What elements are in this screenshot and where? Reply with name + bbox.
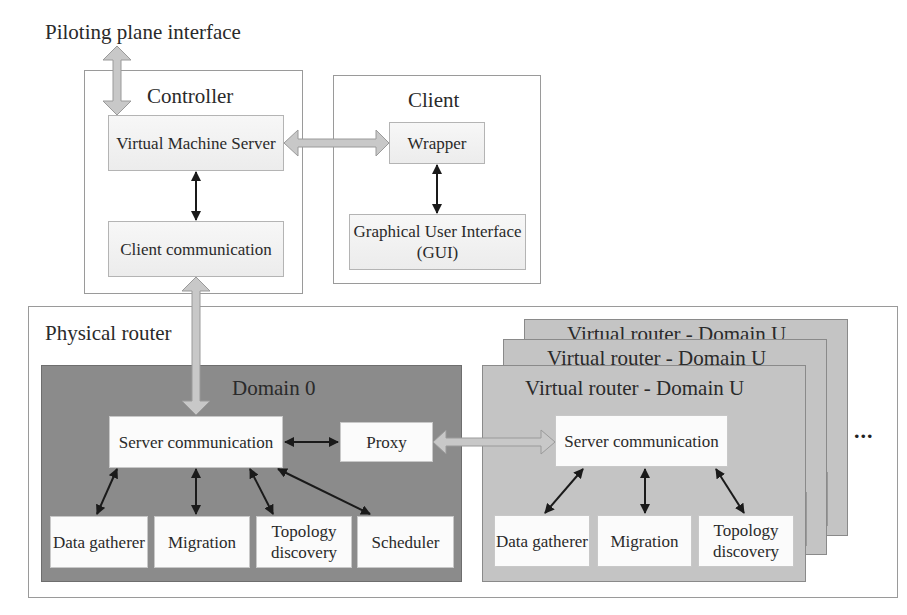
more-virtual-routers-ellipsis: ... [854,418,874,444]
virtual-router-title: Virtual router - Domain U [525,376,744,401]
physical-router-title: Physical router [45,321,172,346]
gui-box: Graphical User Interface (GUI) [349,214,526,270]
domain0-topology-discovery-box: Topology discovery [256,516,352,568]
wrapper-box: Wrapper [389,122,485,164]
proxy-box: Proxy [340,422,433,462]
domainU-server-communication-box: Server communication [555,415,728,467]
vm-server-box: Virtual Machine Server [108,115,284,171]
client-title: Client [408,88,459,113]
domain0-title: Domain 0 [232,376,315,401]
domain0-scheduler-box: Scheduler [357,516,454,568]
domain0-data-gatherer-box: Data gatherer [50,516,148,568]
client-communication-box: Client communication [108,221,284,277]
domain0-migration-box: Migration [154,516,250,568]
domainU-migration-box: Migration [597,515,692,567]
domain0-server-communication-box: Server communication [109,416,283,468]
piloting-plane-label: Piloting plane interface [45,20,241,45]
domainU-topology-discovery-box: Topology discovery [698,515,794,567]
domainU-data-gatherer-box: Data gatherer [494,515,590,567]
controller-title: Controller [147,84,233,109]
